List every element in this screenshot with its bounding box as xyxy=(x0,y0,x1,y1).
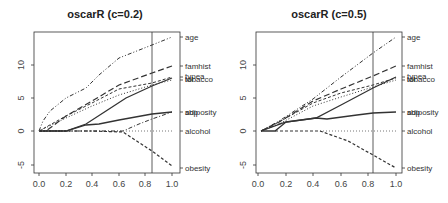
y-tick-label: 10 xyxy=(238,60,248,70)
y-tick-label: -5 xyxy=(238,161,248,169)
y-tick-label: 10 xyxy=(16,60,26,70)
x-tick-label: 0.8 xyxy=(139,179,152,189)
y-axis xyxy=(31,65,34,165)
x-tick-label: 0.6 xyxy=(335,179,348,189)
label-obesity: obesity xyxy=(407,164,432,173)
panel-title: oscarR (c=0.5) xyxy=(291,8,367,20)
label-sbp: sbp xyxy=(185,108,198,117)
label-alcohol: alcohol xyxy=(185,127,211,136)
x-tick-label: 0.6 xyxy=(113,179,126,189)
right-label-ticks xyxy=(402,37,405,168)
x-tick-label: 1.0 xyxy=(390,179,403,189)
y-tick-label: 5 xyxy=(238,95,248,100)
y-tick-label: 5 xyxy=(16,95,26,100)
plot-frame xyxy=(34,32,180,173)
label-age: age xyxy=(407,33,421,42)
label-famhist: famhist xyxy=(407,62,434,71)
path-adiposity xyxy=(261,112,396,131)
label-famhist: famhist xyxy=(185,62,212,71)
y-tick-label: 0 xyxy=(16,128,26,133)
x-tick-label: 0.4 xyxy=(86,179,99,189)
panel-title: oscarR (c=0.2) xyxy=(67,8,143,20)
x-tick-label: 0.4 xyxy=(307,179,320,189)
x-tick-label: 0.0 xyxy=(252,179,265,189)
y-tick-label: 0 xyxy=(238,128,248,133)
panel-left: oscarR (c=0.2) 10 5 0 -5 0.0 0.2 0.4 0.6… xyxy=(16,8,217,189)
x-axis xyxy=(258,173,396,176)
label-age: age xyxy=(185,33,199,42)
y-axis xyxy=(253,65,256,165)
right-label-ticks xyxy=(180,37,183,168)
x-tick-label: 0.2 xyxy=(280,179,293,189)
label-ldl: ldl xyxy=(407,75,415,84)
figure: oscarR (c=0.2) 10 5 0 -5 0.0 0.2 0.4 0.6… xyxy=(0,0,448,203)
x-axis xyxy=(39,173,172,176)
plot-frame xyxy=(256,32,402,173)
x-tick-label: 1.0 xyxy=(166,179,179,189)
panel-right: oscarR (c=0.5) 10 5 0 -5 0.0 0.2 0.4 0.6… xyxy=(238,8,439,189)
label-ldl: ldl xyxy=(185,75,193,84)
x-tick-label: 0.0 xyxy=(33,179,46,189)
x-tick-label: 0.2 xyxy=(60,179,73,189)
label-alcohol: alcohol xyxy=(407,127,433,136)
label-obesity: obesity xyxy=(185,164,210,173)
y-tick-label: -5 xyxy=(16,161,26,169)
path-obesity xyxy=(275,131,396,168)
label-sbp: sbp xyxy=(407,108,420,117)
x-tick-label: 0.8 xyxy=(362,179,375,189)
path-age xyxy=(261,37,396,131)
